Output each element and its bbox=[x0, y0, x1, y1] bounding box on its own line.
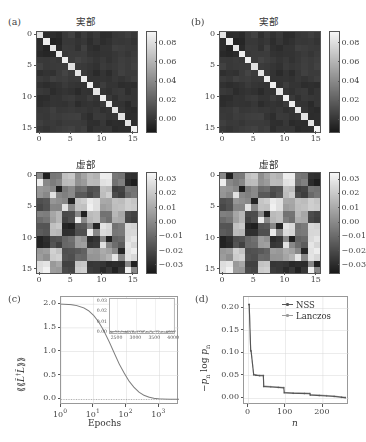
colorbar-tick-mark bbox=[338, 207, 340, 208]
colorbar-tick-mark bbox=[338, 61, 340, 62]
colorbar-tick-label: 0.04 bbox=[159, 76, 177, 85]
colorbar-tick-mark bbox=[155, 207, 157, 208]
colorbar-tick-mark bbox=[155, 193, 157, 194]
colorbar-tick-label: 0.00 bbox=[159, 114, 177, 123]
heatmap-xtick-label: 15 bbox=[309, 134, 323, 143]
panel-c-xtick-label: 101 bbox=[82, 407, 104, 419]
panel-d-ytick-mark bbox=[241, 352, 244, 353]
heatmap-xtick-label: 5 bbox=[63, 134, 77, 143]
colorbar-tick-label: 0.02 bbox=[342, 188, 360, 197]
colorbar-tick-label: 0.01 bbox=[159, 203, 177, 212]
heatmap-ytick-label: 5 bbox=[197, 60, 215, 69]
heatmap-ytick-mark bbox=[34, 175, 37, 176]
colorbar-tick-mark bbox=[338, 81, 340, 82]
panel-c-inset-xtick-label: 2500 bbox=[109, 335, 125, 340]
heatmap-ytick-label: 15 bbox=[197, 123, 215, 132]
panel-d-ytick-mark bbox=[241, 397, 244, 398]
panel-d-ylabel: −pn log pn bbox=[199, 345, 212, 392]
colorbar-b-imag bbox=[329, 172, 340, 274]
heatmap-ytick-mark bbox=[217, 237, 220, 238]
heatmap-xtick-label: 0 bbox=[32, 275, 46, 284]
colorbar-tick-mark bbox=[338, 222, 340, 223]
colorbar-tick-label: 0.04 bbox=[342, 76, 360, 85]
legend-label-nss: NSS bbox=[296, 300, 315, 310]
colorbar-tick-mark bbox=[338, 179, 340, 180]
heatmap-xtick-label: 15 bbox=[309, 275, 323, 284]
legend-label-lanczos: Lanczos bbox=[296, 311, 331, 321]
panel-c-ytick-mark bbox=[58, 350, 61, 351]
panel-c-ytick-label: 1.5 bbox=[34, 322, 56, 331]
colorbar-tick-label: 0.08 bbox=[342, 38, 360, 47]
heatmap-xtick-label: 10 bbox=[95, 134, 109, 143]
heatmap-ytick-mark bbox=[217, 206, 220, 207]
panel-d-ytick-label: 0.20 bbox=[215, 302, 239, 311]
colorbar-tick-mark bbox=[155, 222, 157, 223]
colorbar-tick-mark bbox=[155, 264, 157, 265]
heatmap-ytick-mark bbox=[217, 127, 220, 128]
panel-d-label: (d) bbox=[195, 293, 209, 304]
colorbar-tick-label: 0.03 bbox=[342, 174, 360, 183]
panel-c-inset-ytick-label: 0.01 bbox=[92, 319, 107, 324]
heatmap-a-imag bbox=[36, 172, 138, 274]
heatmap-xtick-label: 5 bbox=[246, 134, 260, 143]
colorbar-tick-label: 0.02 bbox=[342, 95, 360, 104]
colorbar-tick-mark bbox=[338, 42, 340, 43]
panel-c-ytick-label: 0.5 bbox=[34, 370, 56, 379]
panel-c-inset-ytick-label: 0.02 bbox=[92, 308, 107, 313]
panel-d-ytick-label: 0.15 bbox=[215, 325, 239, 334]
colorbar-tick-label: −0.01 bbox=[159, 231, 184, 240]
panel-c-inset-xtick-label: 3500 bbox=[146, 335, 162, 340]
figure-canvas: (a) 実部 005510101515 0.080.060.040.020.00… bbox=[0, 0, 366, 442]
panel-d-ytick-mark bbox=[241, 329, 244, 330]
heatmap-ytick-label: 5 bbox=[197, 201, 215, 210]
heatmap-ytick-label: 5 bbox=[14, 201, 32, 210]
colorbar-tick-label: −0.03 bbox=[342, 260, 366, 269]
colorbar-tick-mark bbox=[338, 250, 340, 251]
panel-c-ytick-label: 1.0 bbox=[34, 346, 56, 355]
panel-d-xtick-label: 0 bbox=[236, 407, 258, 416]
colorbar-tick-mark bbox=[338, 193, 340, 194]
panel-c-inset-xtick-label: 4000 bbox=[165, 335, 181, 340]
colorbar-tick-label: 0.06 bbox=[342, 57, 360, 66]
heatmap-ytick-mark bbox=[34, 34, 37, 35]
colorbar-tick-mark bbox=[338, 119, 340, 120]
heatmap-b-imag-title: 虚部 bbox=[219, 157, 319, 171]
panel-c-inset bbox=[109, 298, 175, 334]
heatmap-xtick-label: 10 bbox=[95, 275, 109, 284]
colorbar-tick-label: 0.00 bbox=[159, 217, 177, 226]
heatmap-ytick-mark bbox=[217, 175, 220, 176]
colorbar-tick-mark bbox=[155, 119, 157, 120]
panel-c-xtick-label: 100 bbox=[49, 407, 71, 419]
panel-d-xtick-label: 100 bbox=[274, 407, 296, 416]
heatmap-ytick-label: 15 bbox=[14, 264, 32, 273]
heatmap-ytick-label: 10 bbox=[197, 233, 215, 242]
legend-marker-nss bbox=[286, 303, 289, 306]
panel-d-ytick-label: 0.00 bbox=[215, 392, 239, 401]
colorbar-tick-mark bbox=[155, 42, 157, 43]
legend-marker-lanczos bbox=[286, 314, 289, 317]
heatmap-ytick-label: 0 bbox=[14, 29, 32, 38]
panel-c-inset-xtick-label: 3000 bbox=[127, 335, 143, 340]
panel-c-label: (c) bbox=[8, 293, 21, 304]
heatmap-ytick-mark bbox=[217, 96, 220, 97]
colorbar-a-imag bbox=[146, 172, 157, 274]
heatmap-xtick-label: 0 bbox=[215, 275, 229, 284]
panel-d-ytick-label: 0.05 bbox=[215, 370, 239, 379]
panel-d-ytick-label: 0.10 bbox=[215, 347, 239, 356]
colorbar-tick-mark bbox=[155, 61, 157, 62]
colorbar-a bbox=[146, 31, 157, 133]
heatmap-ytick-label: 0 bbox=[14, 170, 32, 179]
heatmap-ytick-mark bbox=[34, 206, 37, 207]
colorbar-tick-mark bbox=[155, 236, 157, 237]
panel-d-ytick-mark bbox=[241, 374, 244, 375]
heatmap-xtick-label: 5 bbox=[246, 275, 260, 284]
colorbar-tick-label: 0.06 bbox=[159, 57, 177, 66]
panel-c-xtick-label: 102 bbox=[115, 407, 137, 419]
colorbar-tick-label: 0.01 bbox=[342, 203, 360, 212]
colorbar-tick-mark bbox=[338, 236, 340, 237]
colorbar-tick-mark bbox=[338, 100, 340, 101]
panel-c-ytick-label: 2.0 bbox=[34, 298, 56, 307]
panel-a-label: (a) bbox=[8, 16, 21, 27]
colorbar-tick-label: −0.03 bbox=[159, 260, 184, 269]
heatmap-b-imag bbox=[219, 172, 321, 274]
